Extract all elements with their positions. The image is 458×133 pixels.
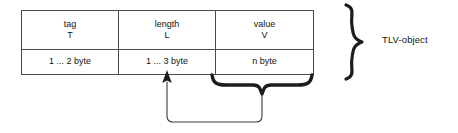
tag-letter: T [22,30,118,42]
value-to-length-connector-arrow [158,68,274,130]
cell-length-header: length L [119,11,216,50]
cell-tag-size: 1 ... 2 byte [22,50,119,75]
tlv-object-brace-icon [340,2,374,82]
cell-value-header: value V [216,11,314,50]
cell-tag-header: tag T [22,11,119,50]
tlv-diagram: tag T length L value V 1 ... 2 byte 1 ..… [0,0,458,133]
table-row-header: tag T length L value V [22,11,314,50]
value-letter: V [216,30,313,42]
tlv-table: tag T length L value V 1 ... 2 byte 1 ..… [21,10,314,75]
value-name: value [216,19,313,31]
length-name: length [119,19,215,31]
length-letter: L [119,30,215,42]
tag-name: tag [22,19,118,31]
tlv-object-label: TLV-object [382,34,428,45]
